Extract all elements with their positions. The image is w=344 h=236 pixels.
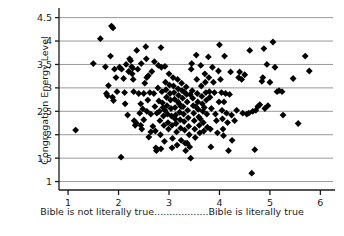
y-tick-label: 2.5	[37, 106, 52, 117]
data-point	[263, 61, 270, 68]
data-point	[229, 137, 236, 144]
data-point	[306, 68, 313, 75]
y-tick-label: 2	[46, 129, 52, 140]
data-point	[134, 66, 141, 73]
data-point	[260, 45, 267, 52]
data-point	[191, 117, 198, 124]
data-point	[193, 52, 200, 59]
data-point	[157, 131, 164, 138]
data-point	[205, 54, 212, 61]
data-point	[157, 117, 164, 124]
data-point	[188, 66, 195, 73]
data-point	[186, 131, 193, 138]
data-point	[216, 41, 223, 48]
data-point	[193, 76, 200, 83]
gridlines	[59, 18, 333, 182]
data-point	[124, 112, 131, 119]
scatter-chart: Congregation Energy Level 11.522.533.544…	[0, 0, 344, 236]
data-point	[187, 155, 194, 162]
data-point	[220, 126, 227, 133]
data-point	[231, 117, 238, 124]
data-point	[90, 60, 97, 67]
data-point	[280, 112, 287, 119]
data-point	[246, 47, 253, 54]
data-point	[151, 103, 158, 110]
data-point	[217, 76, 224, 83]
data-point	[197, 62, 204, 69]
data-point	[214, 129, 221, 136]
data-point	[225, 147, 232, 154]
data-point	[188, 60, 195, 67]
data-point	[295, 120, 302, 127]
data-point	[224, 119, 231, 126]
data-point	[213, 117, 220, 124]
plot-canvas: 11.522.533.544.5123456	[0, 0, 344, 236]
data-point	[122, 100, 129, 107]
data-point	[144, 97, 151, 104]
data-point	[138, 60, 145, 67]
data-point	[158, 44, 165, 51]
data-point	[113, 74, 120, 81]
data-point	[210, 79, 217, 86]
y-tick-label: 3.5	[37, 59, 52, 70]
data-point	[161, 138, 168, 145]
data-point	[233, 107, 240, 114]
data-point	[114, 88, 121, 95]
data-point	[267, 79, 274, 86]
data-point	[141, 80, 148, 87]
y-ticks: 11.522.533.544.5	[37, 12, 59, 187]
data-point	[140, 116, 147, 123]
data-point	[118, 154, 125, 161]
data-point	[140, 90, 147, 97]
data-point	[142, 43, 149, 50]
data-point	[143, 55, 150, 62]
x-axis-title: Bible is not literally true.............…	[0, 206, 344, 217]
data-point	[220, 132, 227, 139]
data-point	[191, 126, 198, 133]
data-points	[72, 23, 312, 177]
data-point	[107, 53, 114, 60]
data-point	[251, 146, 258, 153]
data-point	[215, 68, 222, 75]
data-point	[270, 39, 277, 46]
data-point	[130, 76, 137, 83]
data-point	[207, 144, 214, 151]
y-tick-label: 4.5	[37, 12, 52, 23]
data-point	[184, 99, 191, 106]
data-point	[221, 99, 228, 106]
data-point	[72, 127, 79, 134]
data-point	[120, 75, 127, 82]
data-point	[169, 135, 176, 142]
y-tick-label: 3	[46, 82, 52, 93]
data-point	[221, 53, 228, 60]
data-point	[219, 115, 226, 122]
data-point	[290, 75, 297, 82]
data-point	[227, 69, 234, 76]
y-tick-label: 1.5	[37, 153, 52, 164]
data-point	[190, 110, 197, 117]
data-point	[133, 47, 140, 54]
data-point	[302, 53, 309, 60]
y-tick-label: 1	[46, 176, 52, 187]
data-point	[121, 89, 128, 96]
y-tick-label: 4	[46, 35, 52, 46]
data-point	[248, 170, 255, 177]
data-point	[211, 89, 218, 96]
